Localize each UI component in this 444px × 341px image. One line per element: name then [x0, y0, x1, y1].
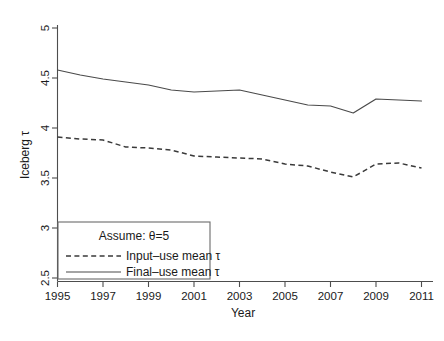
y-tick-label: 3.5 — [39, 170, 51, 186]
legend-label-final-use: Final–use mean τ — [126, 265, 220, 279]
x-tick-label: 2005 — [272, 290, 298, 302]
x-axis-title: Year — [231, 306, 255, 320]
y-tick-label: 3 — [39, 225, 51, 231]
y-tick-label: 2.5 — [39, 270, 51, 286]
legend-label-input-use: Input–use mean τ — [126, 249, 220, 263]
x-tick-label: 1999 — [136, 290, 162, 302]
chart-legend: Assume: θ=5 Input–use mean τ Final–use m… — [58, 222, 220, 279]
y-tick-label: 4 — [39, 124, 51, 131]
line-chart: 5 4.5 4 3.5 3 2.5 Iceberg τ 1995 1997 19… — [0, 0, 444, 341]
x-axis-tick-labels: 1995 1997 1999 2001 2003 2005 2007 2009 … — [45, 290, 434, 302]
chart-figure: 5 4.5 4 3.5 3 2.5 Iceberg τ 1995 1997 19… — [0, 0, 444, 341]
y-tick-label: 4.5 — [39, 70, 51, 86]
x-tick-label: 2003 — [227, 290, 253, 302]
y-tick-label: 5 — [39, 25, 51, 31]
x-tick-label: 2001 — [181, 290, 207, 302]
y-axis-title: Iceberg τ — [18, 131, 32, 179]
x-tick-label: 2011 — [409, 290, 434, 302]
x-tick-label: 1997 — [90, 290, 116, 302]
x-tick-label: 2007 — [318, 290, 344, 302]
x-tick-label: 2009 — [363, 290, 389, 302]
legend-title: Assume: θ=5 — [99, 229, 170, 243]
x-tick-label: 1995 — [45, 290, 71, 302]
